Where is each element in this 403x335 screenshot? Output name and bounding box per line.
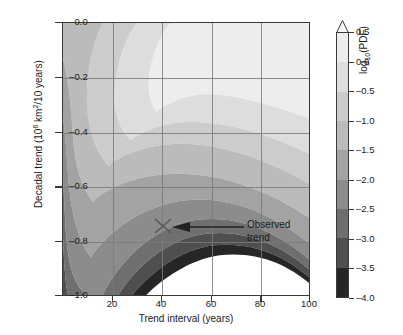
y-axis-label-sup2: 2 bbox=[32, 105, 39, 109]
cbtick-label-6: –2.5 bbox=[356, 204, 375, 214]
cbtick-label-9: –4.0 bbox=[356, 293, 375, 303]
cbtick-label-3: –1.0 bbox=[356, 116, 375, 126]
colorbar-title-sub: 10 bbox=[364, 53, 371, 61]
x-axis-label: Trend interval (years) bbox=[62, 313, 310, 324]
contour-figure: 0.0 –0.2 –0.4 –0.6 –0.8 –1.0 20 40 60 80… bbox=[0, 0, 403, 335]
cbtick-label-4: –1.5 bbox=[356, 145, 375, 155]
colorbar-band-3 bbox=[337, 121, 348, 150]
gridline-x-20 bbox=[113, 23, 114, 295]
colorbar-title: log10(PDF) bbox=[358, 0, 371, 105]
observed-trend-label-line2: trend bbox=[247, 232, 309, 245]
contour-fill-layer bbox=[63, 23, 309, 295]
colorbar-band-0 bbox=[337, 33, 348, 62]
cbtick-mark-2 bbox=[349, 91, 354, 92]
xtick-label-60: 60 bbox=[191, 299, 231, 309]
cbtick-mark-7 bbox=[349, 239, 354, 240]
observed-trend-label-line1: Observed bbox=[247, 219, 309, 232]
ytick-label-0: 0.0 bbox=[54, 17, 88, 27]
xtick-label-40: 40 bbox=[141, 299, 181, 309]
colorbar-gradient bbox=[336, 32, 349, 298]
xtick-label-20: 20 bbox=[92, 299, 132, 309]
y-axis-label-pre: Decadal trend (10 bbox=[33, 129, 44, 209]
gridline-x-40 bbox=[162, 23, 163, 295]
gridline-x-80 bbox=[261, 23, 262, 295]
cbtick-label-8: –3.5 bbox=[356, 263, 375, 273]
cbtick-mark-3 bbox=[349, 121, 354, 122]
colorbar-band-8 bbox=[337, 268, 348, 297]
colorbar-band-2 bbox=[337, 92, 348, 121]
gridline-y-m06 bbox=[63, 187, 309, 188]
colorbar-title-suffix: (PDF) bbox=[358, 26, 369, 53]
ytick-label-3: –0.6 bbox=[54, 181, 88, 191]
colorbar-band-1 bbox=[337, 62, 348, 91]
cbtick-label-7: –3.0 bbox=[356, 234, 375, 244]
gridline-x-60 bbox=[212, 23, 213, 295]
y-axis-label-mid: km bbox=[33, 109, 44, 125]
colorbar-band-7 bbox=[337, 238, 348, 267]
cbtick-label-5: –2.0 bbox=[356, 175, 375, 185]
colorbar-title-main: log bbox=[358, 61, 369, 74]
gridline-y-m04 bbox=[63, 133, 309, 134]
xtick-label-80: 80 bbox=[240, 299, 280, 309]
gridline-y-m02 bbox=[63, 78, 309, 79]
plot-area bbox=[62, 22, 310, 296]
cbtick-mark-0 bbox=[349, 32, 354, 33]
observed-trend-arrow-icon bbox=[172, 221, 244, 233]
cbtick-mark-1 bbox=[349, 62, 354, 63]
ytick-label-4: –0.8 bbox=[54, 236, 88, 246]
colorbar-band-5 bbox=[337, 180, 348, 209]
cbtick-mark-5 bbox=[349, 180, 354, 181]
ytick-label-5: –1.0 bbox=[54, 290, 88, 300]
observed-trend-marker-icon bbox=[153, 216, 173, 236]
xtick-label-100: 100 bbox=[289, 299, 329, 309]
cbtick-mark-4 bbox=[349, 150, 354, 151]
colorbar: 0.5 0.0 –0.5 –1.0 –1.5 –2.0 –2.5 –3.0 –3… bbox=[336, 20, 349, 298]
cbtick-mark-6 bbox=[349, 209, 354, 210]
ytick-label-2: –0.4 bbox=[54, 127, 88, 137]
cbtick-mark-8 bbox=[349, 268, 354, 269]
colorbar-band-4 bbox=[337, 150, 348, 179]
y-axis-label: Decadal trend (106 km2/10 years) bbox=[32, 34, 44, 234]
colorbar-band-6 bbox=[337, 209, 348, 238]
y-axis-label-post: /10 years) bbox=[33, 60, 44, 104]
observed-trend-label: Observed trend bbox=[247, 219, 309, 244]
y-axis-label-sup1: 6 bbox=[32, 125, 39, 129]
cbtick-mark-9 bbox=[349, 298, 354, 299]
ytick-label-1: –0.2 bbox=[54, 72, 88, 82]
